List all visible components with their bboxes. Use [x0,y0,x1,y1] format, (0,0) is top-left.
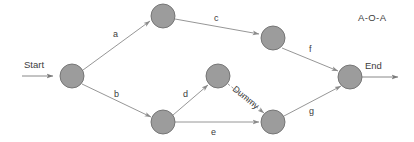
network-diagram: Start a c f b d Dummy e g [0,0,414,142]
node-bottom-right[interactable] [261,110,285,134]
diagram-canvas: Start a c f b d Dummy e g [0,0,414,142]
node-bottom-left[interactable] [151,110,175,134]
edge-label-c: c [214,13,219,23]
start-label: Start [24,59,44,70]
node-middle[interactable] [206,64,230,88]
edge-d [173,85,208,115]
node-top-left[interactable] [151,4,175,28]
edge-label-d: d [183,89,188,99]
node-end[interactable] [338,65,362,89]
edge-label-e: e [211,127,216,137]
end-label: End [365,60,382,71]
edge-label-g: g [309,106,314,116]
edge-label-f: f [309,44,312,54]
diagram-title: A-O-A [358,12,387,23]
node-top-right[interactable] [261,26,285,50]
edge-label-a: a [113,29,118,39]
node-start[interactable] [60,64,84,88]
edge-label-dummy: Dummy [231,84,262,112]
edge-label-b: b [114,89,119,99]
